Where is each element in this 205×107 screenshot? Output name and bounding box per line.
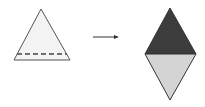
arrow-head-icon — [114, 35, 119, 39]
result-diamond — [145, 8, 196, 100]
triangle-shape — [14, 9, 70, 60]
diamond-top-half — [145, 8, 196, 54]
source-triangle — [14, 9, 70, 60]
diamond-bottom-half — [145, 54, 196, 100]
transform-arrow — [93, 35, 119, 39]
diagram-canvas — [0, 0, 205, 107]
